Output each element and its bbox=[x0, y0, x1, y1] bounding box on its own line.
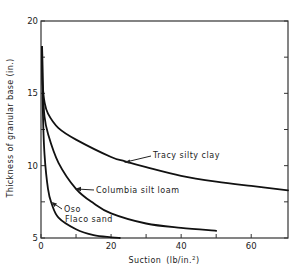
label-flaco-sand: Flaco sand bbox=[65, 215, 113, 224]
x-axis-title: Suction(lb/in.2) bbox=[129, 255, 200, 265]
label-columbia-silt-loam: Columbia silt loam bbox=[96, 186, 179, 195]
x-tick-label: 60 bbox=[246, 241, 257, 251]
curve-columbia-silt-loam bbox=[42, 47, 216, 231]
annotation-tracy: Tracy silty clay bbox=[124, 151, 220, 164]
x-tick-label: 20 bbox=[106, 241, 117, 251]
x-tick-label: 40 bbox=[176, 241, 187, 251]
label-oso: Oso bbox=[64, 205, 81, 214]
annotation-columbia: Columbia silt loam bbox=[75, 186, 179, 195]
suction-thickness-chart: 02040605101520 Thickness of granular bas… bbox=[0, 0, 302, 272]
y-tick-label: 20 bbox=[27, 16, 38, 26]
y-tick-label: 15 bbox=[27, 88, 38, 98]
x-tick-label: 0 bbox=[38, 241, 43, 251]
y-axis-title: Thickness of granular base (in.) bbox=[6, 58, 15, 198]
curve-tracy-silty-clay bbox=[42, 47, 288, 190]
y-tick-label: 5 bbox=[33, 233, 38, 243]
y-tick-label: 10 bbox=[27, 161, 38, 171]
label-tracy-silty-clay: Tracy silty clay bbox=[152, 151, 220, 160]
